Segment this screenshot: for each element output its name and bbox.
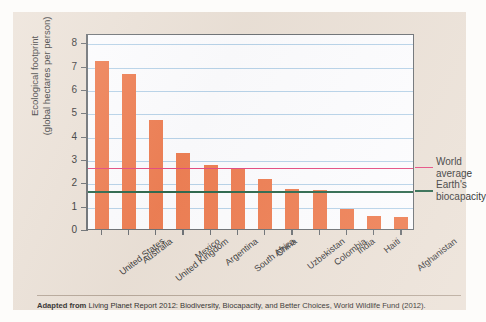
gridline — [88, 44, 413, 45]
x-axis-tick — [210, 230, 211, 235]
figure-panel: Ecological footprint (global hectares pe… — [13, 12, 466, 310]
x-axis-tick — [264, 230, 265, 235]
x-axis-tick — [291, 230, 292, 235]
y-axis-tick-label: 3 — [55, 155, 77, 165]
reference-line-label: World average — [436, 156, 472, 179]
bar — [367, 216, 381, 229]
reference-line-connector — [415, 190, 433, 191]
y-axis-line — [86, 34, 88, 231]
reference-line — [88, 191, 413, 192]
y-axis-tick-label: 4 — [55, 132, 77, 142]
y-axis-tick-label: 8 — [55, 38, 77, 48]
gridline — [88, 91, 413, 92]
bar — [340, 209, 354, 229]
gridline — [88, 161, 413, 162]
bar — [95, 61, 109, 229]
y-axis-tick — [81, 67, 86, 68]
y-axis-tick-label: 1 — [55, 202, 77, 212]
bar — [122, 74, 136, 229]
y-axis-title: Ecological footprint (global hectares pe… — [29, 1, 53, 151]
bar — [204, 165, 218, 229]
x-axis-tick — [101, 230, 102, 235]
reference-line-connector — [415, 167, 433, 168]
x-axis-tick — [346, 230, 347, 235]
y-axis-tick-label: 2 — [55, 178, 77, 188]
x-axis-label: Afghanistan — [415, 236, 459, 273]
x-axis-tick — [182, 230, 183, 235]
caption-divider — [37, 295, 461, 296]
bar — [313, 190, 327, 229]
y-axis-tick — [81, 90, 86, 91]
caption-lead: Adapted from — [37, 301, 86, 310]
plot-area — [87, 34, 414, 230]
y-axis-tick — [81, 43, 86, 44]
gridline — [88, 138, 413, 139]
x-axis-label: Haiti — [382, 236, 402, 255]
y-axis-tick — [81, 160, 86, 161]
bar — [258, 179, 272, 229]
x-axis-label: China — [274, 236, 299, 258]
x-axis-tick — [155, 230, 156, 235]
y-axis-tick — [81, 183, 86, 184]
gridline — [88, 208, 413, 209]
y-axis-tick-label: 7 — [55, 62, 77, 72]
y-axis-tick — [81, 137, 86, 138]
x-axis-tick — [319, 230, 320, 235]
gridline — [88, 184, 413, 185]
x-axis-tick — [128, 230, 129, 235]
y-axis-tick — [81, 207, 86, 208]
figure-caption: Adapted from Living Planet Report 2012: … — [37, 301, 467, 311]
caption-text: Living Planet Report 2012: Biodiversity,… — [86, 301, 425, 310]
y-axis-tick — [81, 113, 86, 114]
bar — [149, 120, 163, 229]
gridline — [88, 114, 413, 115]
bar — [285, 189, 299, 229]
reference-line — [88, 168, 413, 169]
x-axis-tick — [400, 230, 401, 235]
y-axis-tick-label: 5 — [55, 108, 77, 118]
y-axis-tick-label: 6 — [55, 85, 77, 95]
bar — [231, 169, 245, 229]
x-axis-tick — [373, 230, 374, 235]
y-axis-tick-label: 0 — [55, 225, 77, 235]
bar — [394, 217, 408, 229]
reference-line-label: Earth's biocapacity — [436, 179, 486, 202]
gridline — [88, 68, 413, 69]
y-axis-tick — [81, 230, 86, 231]
x-axis-tick — [237, 230, 238, 235]
